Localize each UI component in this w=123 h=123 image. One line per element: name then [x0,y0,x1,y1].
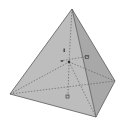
face-left [10,9,96,117]
center-point [68,61,71,64]
tetrahedron-svg [0,0,123,123]
tetrahedron-diagram [0,0,123,123]
marker-top-glyph [64,49,65,53]
marker-left-dot [61,60,63,62]
